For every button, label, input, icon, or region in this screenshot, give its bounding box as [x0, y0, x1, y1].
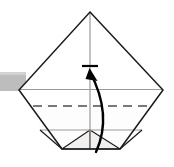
origami-diagram-canvas [0, 0, 174, 167]
side-tab-highlight [0, 72, 26, 75]
origami-diagram-figure [0, 0, 174, 167]
